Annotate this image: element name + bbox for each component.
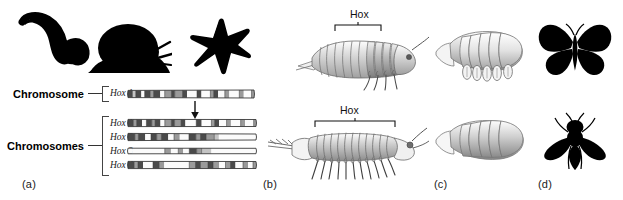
single-cluster-bracket — [102, 86, 109, 102]
chromosomes-leader-line — [88, 145, 102, 146]
chromosome-hox1-single — [126, 88, 256, 100]
isopod-crustacean-drawing — [294, 30, 430, 92]
panel-d — [525, 0, 623, 200]
chromosome-leader-line — [88, 93, 102, 94]
panel-label-c: (c) — [434, 178, 447, 190]
panel-b: Hox — [258, 0, 430, 200]
snail-silhouette — [86, 18, 172, 80]
chromosomes-label: Chromosomes — [0, 140, 84, 152]
panel-label-d: (d) — [538, 178, 552, 190]
figure-root: Chromosome Hox 1 Chromosomes Hox 1 Hox 2… — [0, 0, 623, 200]
worm-silhouette — [16, 8, 96, 80]
hox-bracket-label-centipede: Hox — [340, 104, 359, 116]
panel-label-a: (a) — [22, 178, 36, 190]
centipede-myriapod-drawing — [266, 124, 430, 180]
insect-embryo-without-limb-buds-drawing — [434, 114, 526, 172]
hox-bracket-label-isopod: Hox — [350, 8, 369, 20]
chromosome-hox4 — [126, 159, 258, 171]
fly-silhouette — [539, 112, 611, 174]
chromosome-label: Chromosome — [6, 88, 84, 100]
crustacean-embryo-with-limb-buds-drawing — [434, 22, 526, 84]
panel-label-b: (b) — [263, 178, 277, 190]
starfish-silhouette — [186, 12, 256, 78]
chromosome-hox3 — [126, 145, 258, 157]
chromosome-hox2 — [126, 131, 258, 143]
panel-c — [430, 0, 525, 200]
chromosome-hox1 — [126, 117, 258, 129]
butterfly-silhouette — [535, 20, 615, 82]
panel-a: Chromosome Hox 1 Chromosomes Hox 1 Hox 2… — [0, 0, 258, 200]
duplicated-cluster-bracket — [102, 116, 109, 176]
